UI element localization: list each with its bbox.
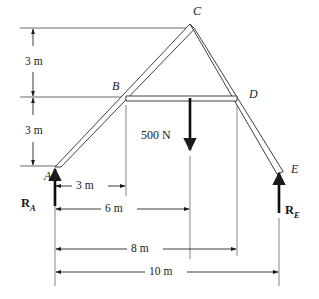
horizontal-dim-3m-label: 3 m [76,180,94,192]
node-label-C: C [193,5,201,17]
applied-load-label: 500 N [141,129,171,141]
vertical-dim-upper-3m-label: 3 m [25,56,43,68]
vertical-dim-lower-3m-label: 3 m [25,125,43,137]
horizontal-dim-10m-label: 10 m [149,266,172,278]
member-A-C [55,24,195,167]
reaction-A-symbol: R [21,196,30,210]
horizontal-dim-8m-label: 8 m [131,243,149,255]
member-B-D [126,96,237,101]
diagram-canvas [0,0,319,299]
reaction-A-subscript: A [30,203,36,213]
node-label-E: E [291,163,298,175]
reaction-E-subscript: E [294,210,300,220]
node-label-A: A [44,170,51,182]
horizontal-dim-6m-label: 6 m [105,203,123,215]
node-label-D: D [249,88,258,100]
node-label-B: B [112,80,119,92]
reaction-E-label: RE [285,204,300,219]
truss-free-body-diagram: A B C D E 3 m 3 m 3 m 6 m 8 m 10 m 500 N… [0,0,319,299]
reaction-E-symbol: R [285,203,294,217]
reaction-A-label: RA [21,197,36,212]
